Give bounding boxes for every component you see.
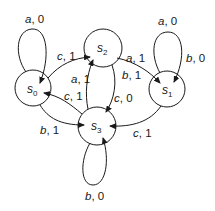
edge-s2-s3 [106,65,115,112]
label-s1-loop-a: a, 0 [158,15,177,27]
state-s1: s1 [149,71,185,107]
label-s0-s2: c, 1 [57,50,76,62]
edge-s0-loop [18,29,46,83]
label-s3-s0: c, 1 [64,90,83,102]
svg-text:s1: s1 [162,83,173,99]
edge-s1-s3 [110,106,161,126]
label-s3-loop: b, 0 [85,190,104,202]
state-s2: s2 [84,29,122,67]
label-s1-loop-b: b, 0 [186,52,205,64]
svg-text:s0: s0 [27,82,38,98]
state-s0: s0 [15,70,51,106]
state-diagram: s0 s1 s2 s3 a, 0 c, 1 c, 1 b, 1 a, 1 b, … [0,0,215,211]
edge-s0-s3 [40,105,84,125]
label-s2-s3: c, 0 [114,92,133,104]
label-s3-s2: a, 1 [71,73,90,85]
label-s0-loop: a, 0 [25,13,44,25]
label-s2-s1-a: a, 1 [126,52,145,64]
label-s2-s1-b: b, 1 [122,69,141,81]
svg-text:s3: s3 [91,119,102,135]
label-s0-s3: b, 1 [40,124,59,136]
svg-text:s2: s2 [97,41,108,57]
edge-s1-loop [154,32,182,82]
label-s1-s3: c, 1 [133,127,152,139]
